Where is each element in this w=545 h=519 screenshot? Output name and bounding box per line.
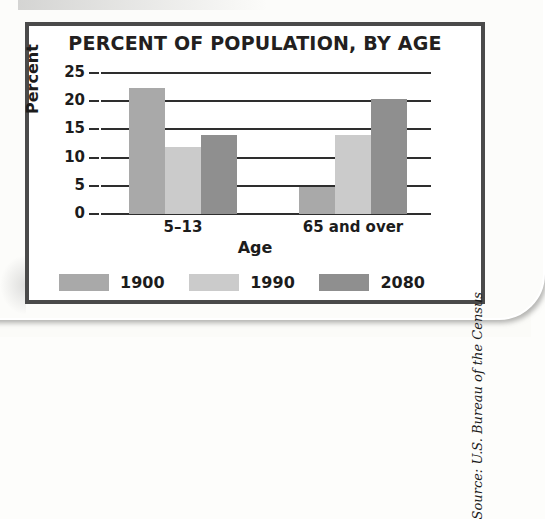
y-tick-stub-5 — [89, 185, 99, 187]
y-axis-tick-labels: 0510152025 — [47, 73, 85, 214]
chart-title: PERCENT OF POPULATION, BY AGE — [29, 32, 481, 54]
legend-swatch-2080 — [319, 274, 369, 291]
plot-area — [101, 73, 431, 214]
y-tick-stub-15 — [89, 128, 99, 130]
bar-1900-65-and-over — [299, 187, 335, 214]
legend-item-2080[interactable]: 2080 — [319, 273, 425, 292]
scan-artifact-top — [18, 0, 268, 10]
y-tick-stub-20 — [89, 100, 99, 102]
bar-2080-65-and-over — [371, 99, 407, 214]
x-axis-title: Age — [29, 238, 481, 257]
y-tick-label-25: 25 — [64, 65, 85, 80]
legend-label-1990: 1990 — [250, 273, 295, 292]
legend-label-1900: 1900 — [120, 273, 165, 292]
scan-artifact-left — [0, 255, 26, 315]
y-tick-label-0: 0 — [75, 206, 85, 221]
bar-1990-5–13 — [165, 147, 201, 214]
legend-item-1990[interactable]: 1990 — [189, 273, 295, 292]
y-axis-title: Percent — [23, 44, 42, 114]
bar-1900-5–13 — [129, 88, 165, 214]
y-tick-label-20: 20 — [64, 93, 85, 108]
y-tick-stub-0 — [89, 213, 99, 215]
y-tick-stub-10 — [89, 157, 99, 159]
legend-swatch-1990 — [189, 274, 239, 291]
y-tick-label-5: 5 — [75, 178, 85, 193]
legend-item-1900[interactable]: 1900 — [59, 273, 165, 292]
y-tick-label-10: 10 — [64, 150, 85, 165]
legend-label-2080: 2080 — [380, 273, 425, 292]
bar-1990-65-and-over — [335, 135, 371, 214]
chart-figure-frame: PERCENT OF POPULATION, BY AGE Percent 05… — [25, 22, 485, 304]
source-note: Source: U.S. Bureau of the Census — [470, 292, 485, 519]
x-category-label-1: 65 and over — [279, 218, 427, 236]
y-tick-label-15: 15 — [64, 121, 85, 136]
legend-swatch-1900 — [59, 274, 109, 291]
chart-legend: 190019902080 — [59, 270, 425, 294]
bars-layer — [101, 73, 431, 214]
bar-2080-5–13 — [201, 135, 237, 214]
x-category-label-0: 5–13 — [109, 218, 257, 236]
y-tick-stub-25 — [89, 72, 99, 74]
